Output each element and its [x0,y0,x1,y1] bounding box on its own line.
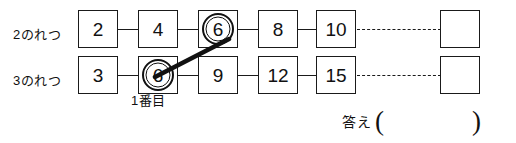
answer-paren-open: ( [375,108,384,135]
connector-row3-dashed [357,75,441,76]
connector-row2-seg2 [178,29,200,30]
number-box-row3-1[interactable]: 3 [78,56,118,94]
row-label-2: 2のれつ [13,28,61,41]
number-box-row2-1[interactable]: 2 [78,10,118,48]
connector-row3-seg2 [178,75,200,76]
number-box-row3-5[interactable]: 15 [316,56,356,94]
number-box-row3-3[interactable]: 9 [198,56,238,94]
number-box-value: 8 [273,20,284,39]
number-box-value: 4 [153,20,164,39]
connector-row3-seg4 [296,75,318,76]
number-box-row3-2-circled[interactable]: 6 [138,56,178,94]
connector-row2-dashed [357,29,441,30]
number-box-value: 12 [267,66,288,85]
answer-paren-close: ) [472,108,481,135]
connector-row2-seg3 [238,29,260,30]
number-box-row3-6-blank[interactable] [440,56,480,94]
number-box-row2-4[interactable]: 8 [258,10,298,48]
row-label-3: 3のれつ [13,74,61,87]
number-box-value: 2 [93,20,104,39]
answer-label: 答え [342,115,371,129]
number-box-row2-5[interactable]: 10 [316,10,356,48]
number-box-value: 3 [93,66,104,85]
caption-first-occurrence: 1番目 [131,94,166,107]
number-box-row3-4[interactable]: 12 [258,56,298,94]
number-box-value: 6 [213,20,224,39]
answer-input-blank[interactable] [384,111,472,133]
connector-row3-seg1 [118,75,140,76]
number-box-row2-6-blank[interactable] [440,10,480,48]
number-box-value: 6 [153,66,164,85]
number-box-value: 9 [213,66,224,85]
answer-area: 答え ( ) [342,108,481,135]
number-box-value: 15 [325,66,346,85]
connector-row3-seg3 [238,75,260,76]
worksheet-canvas: 2のれつ 3のれつ 2 4 6 8 10 3 6 9 [0,0,516,143]
number-box-row2-3-circled[interactable]: 6 [198,10,238,48]
connector-row2-seg1 [118,29,140,30]
connector-row2-seg4 [296,29,318,30]
number-box-value: 10 [325,20,346,39]
number-box-row2-2[interactable]: 4 [138,10,178,48]
